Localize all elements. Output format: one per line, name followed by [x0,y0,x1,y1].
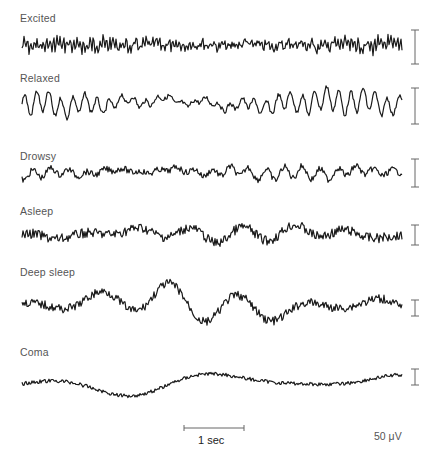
amplitude-scale-bar [411,225,419,245]
eeg-trace-drowsy [22,164,402,183]
time-scale-bar [184,425,244,431]
time-scale-label: 1 sec [198,434,224,446]
amplitude-scale-label: 50 μV [374,430,402,442]
eeg-trace-relaxed [22,86,402,120]
eeg-trace-coma [22,372,402,397]
amplitude-scale-bar [411,369,419,385]
eeg-trace-deep-sleep [22,279,402,325]
amplitude-scale-bar [411,88,419,124]
amplitude-scale-bar [411,159,419,187]
amplitude-scale-bar [411,300,419,316]
eeg-trace-excited [22,34,402,55]
eeg-trace-asleep [22,223,402,247]
amplitude-scale-bar [411,30,419,64]
eeg-traces [0,0,441,464]
